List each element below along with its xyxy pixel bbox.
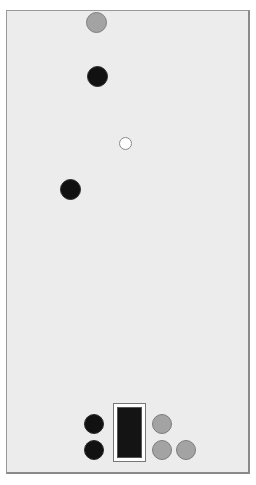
goal-slot <box>113 403 146 462</box>
gray-tray-piece[interactable] <box>176 440 196 460</box>
white-ball[interactable] <box>119 137 132 150</box>
black-piece[interactable] <box>87 66 108 87</box>
black-tray-piece[interactable] <box>84 414 104 434</box>
gray-tray-piece[interactable] <box>152 414 172 434</box>
black-tray-piece[interactable] <box>84 440 104 460</box>
goal-slot-fill <box>117 407 142 458</box>
gray-piece-top[interactable] <box>86 12 107 33</box>
gray-tray-piece[interactable] <box>152 440 172 460</box>
black-piece[interactable] <box>60 179 81 200</box>
